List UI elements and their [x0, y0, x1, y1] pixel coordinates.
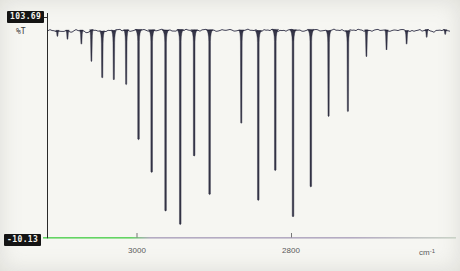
absorption-line: [307, 29, 314, 187]
absorption-line: [124, 30, 129, 85]
x-axis-unit-label: cm-1: [419, 246, 435, 258]
absorption-line: [443, 30, 447, 35]
absorption-line: [162, 30, 169, 211]
absorption-line: [191, 30, 198, 156]
absorption-line: [255, 31, 262, 201]
absorption-line: [56, 30, 60, 36]
y-axis-min-value-label: -10.13: [4, 234, 41, 246]
x-tick-label-3000: 3000: [117, 246, 157, 256]
absorption-line: [272, 29, 279, 170]
absorption-line: [385, 30, 389, 50]
spectrum-plot-svg: [0, 0, 460, 271]
absorption-line: [405, 31, 409, 44]
absorption-line: [66, 30, 70, 39]
absorption-line: [80, 30, 84, 44]
x-axis-unit-exponent: -1: [430, 248, 435, 254]
absorption-line: [148, 30, 155, 173]
absorption-line: [425, 30, 429, 38]
absorption-line: [239, 30, 244, 123]
absorption-line: [290, 30, 297, 217]
absorption-line: [206, 30, 213, 195]
absorption-line: [100, 31, 105, 78]
y-axis-unit-label: %T: [16, 27, 26, 37]
absorption-line: [177, 30, 184, 225]
absorption-line: [111, 31, 116, 80]
absorption-line: [326, 31, 331, 117]
x-axis-unit-base: cm: [419, 248, 430, 257]
absorption-line: [135, 29, 142, 139]
spectrum-baseline: [48, 29, 450, 33]
x-axis-line: [43, 237, 456, 239]
absorption-line: [345, 31, 350, 112]
absorption-line: [365, 30, 369, 57]
x-tick-label-2800: 2800: [271, 246, 311, 256]
absorption-line: [90, 30, 94, 62]
y-axis-max-value-label: 103.69: [7, 11, 44, 23]
scanned-ir-spectrum: 103.69 %T -10.13 3000 2800 cm-1: [0, 0, 460, 271]
